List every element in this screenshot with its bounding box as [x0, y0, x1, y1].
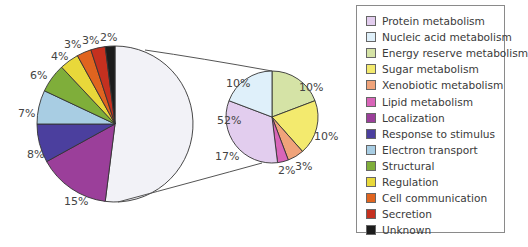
main-percent-label: 2%: [100, 31, 117, 44]
legend-swatch-icon: [366, 97, 376, 107]
legend-label: Unknown: [382, 224, 431, 236]
legend-swatch-icon: [366, 16, 376, 26]
main-percent-label: 15%: [64, 195, 88, 208]
legend-label: Secretion: [382, 208, 432, 220]
main-percent-label: 52%: [217, 114, 241, 127]
legend-label: Protein metabolism: [382, 15, 485, 27]
breakdown-percent-label: 10%: [299, 81, 323, 94]
legend-swatch-icon: [366, 225, 376, 235]
legend-item: Sugar metabolism: [366, 61, 504, 77]
legend-item: Localization: [366, 110, 504, 126]
breakdown-percent-label: 3%: [295, 160, 312, 173]
main-percent-label: 4%: [51, 50, 68, 63]
legend-swatch-icon: [366, 48, 376, 58]
legend-label: Response to stimulus: [382, 128, 495, 140]
legend-label: Lipid metabolism: [382, 96, 473, 108]
legend-item: Response to stimulus: [366, 126, 504, 142]
legend-item: Xenobiotic metabolism: [366, 77, 504, 93]
main-percent-label: 3%: [64, 38, 81, 51]
legend: Protein metabolismNucleic acid metabolis…: [356, 5, 505, 233]
main-percent-label: 7%: [18, 107, 35, 120]
legend-item: Lipid metabolism: [366, 93, 504, 109]
legend-label: Localization: [382, 112, 445, 124]
main-percent-label: 3%: [82, 34, 99, 47]
legend-swatch-icon: [366, 80, 376, 90]
legend-swatch-icon: [366, 32, 376, 42]
main-percent-label: 8%: [27, 148, 44, 161]
legend-label: Regulation: [382, 176, 439, 188]
legend-item: Electron transport: [366, 142, 504, 158]
legend-swatch-icon: [366, 64, 376, 74]
legend-item: Cell communication: [366, 190, 504, 206]
legend-item: Nucleic acid metabolism: [366, 29, 504, 45]
legend-label: Sugar metabolism: [382, 63, 479, 75]
legend-item: Unknown: [366, 222, 504, 238]
legend-label: Structural: [382, 160, 434, 172]
breakdown-percent-label: 10%: [314, 130, 338, 143]
legend-label: Electron transport: [382, 144, 478, 156]
legend-label: Cell communication: [382, 192, 487, 204]
legend-label: Energy reserve metabolism: [382, 47, 528, 59]
legend-item: Regulation: [366, 174, 504, 190]
legend-list: Protein metabolismNucleic acid metabolis…: [357, 6, 504, 238]
legend-swatch-icon: [366, 177, 376, 187]
main-pie: [37, 46, 193, 202]
breakdown-percent-label: 17%: [215, 150, 239, 163]
legend-item: Energy reserve metabolism: [366, 45, 504, 61]
legend-swatch-icon: [366, 129, 376, 139]
breakdown-percent-label: 10%: [226, 77, 250, 90]
legend-label: Nucleic acid metabolism: [382, 31, 512, 43]
legend-swatch-icon: [366, 113, 376, 123]
legend-swatch-icon: [366, 161, 376, 171]
legend-swatch-icon: [366, 209, 376, 219]
legend-item: Structural: [366, 158, 504, 174]
legend-label: Xenobiotic metabolism: [382, 79, 503, 91]
main-slice-metabolism-combined-: [105, 46, 193, 202]
legend-swatch-icon: [366, 193, 376, 203]
breakdown-percent-label: 2%: [278, 164, 295, 177]
legend-item: Secretion: [366, 206, 504, 222]
legend-swatch-icon: [366, 145, 376, 155]
main-percent-label: 6%: [30, 69, 47, 82]
legend-item: Protein metabolism: [366, 13, 504, 29]
